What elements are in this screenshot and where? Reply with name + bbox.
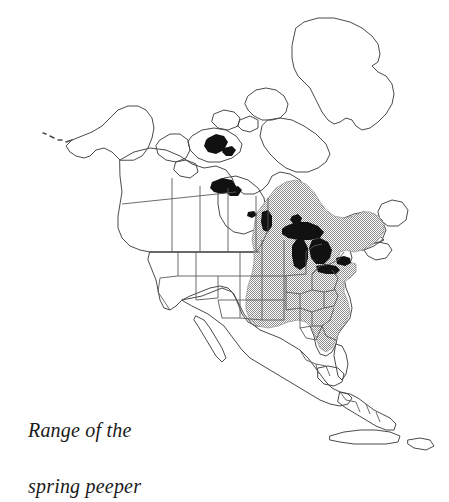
greenland-outline xyxy=(292,18,394,130)
caption-line-1: Range of the xyxy=(28,416,248,444)
baja-california-outline xyxy=(194,316,226,362)
caption-line-2: spring peeper xyxy=(28,472,248,500)
aleutian-islands-outline xyxy=(43,133,72,142)
figure-caption: Range of the spring peeper xyxy=(28,388,248,502)
great-bear-lake-fill xyxy=(204,134,236,156)
mexico-central-america-borders xyxy=(300,350,380,422)
arctic-island-small-c xyxy=(174,160,198,178)
arctic-island-small-a xyxy=(212,110,240,130)
canada-provincial-borders xyxy=(122,178,268,252)
florida-peninsula-outline xyxy=(334,344,348,380)
central-america-outline xyxy=(338,392,396,430)
cuba-outline xyxy=(330,430,400,444)
hispaniola-outline xyxy=(408,438,434,450)
ellesmere-island-outline xyxy=(245,88,288,120)
arctic-island-small-b xyxy=(238,116,258,132)
baffin-island-outline xyxy=(260,118,330,172)
banks-island-outline xyxy=(156,134,190,162)
alaska-outline xyxy=(66,106,154,160)
